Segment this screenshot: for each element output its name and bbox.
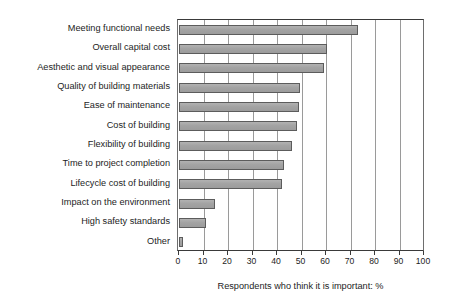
category-label: Flexibility of building	[88, 135, 170, 154]
category-label: Lifecycle cost of building	[70, 174, 170, 193]
x-tick	[423, 251, 424, 255]
bar	[179, 160, 284, 170]
bar	[179, 218, 206, 228]
x-axis: 0102030405060708090100	[177, 251, 424, 273]
bar	[179, 102, 299, 112]
x-tick	[399, 251, 400, 255]
x-tick-label: 10	[198, 256, 208, 266]
gridline	[400, 20, 401, 250]
x-tick	[301, 251, 302, 255]
x-tick	[178, 251, 179, 255]
bar	[179, 199, 215, 209]
gridline	[253, 20, 254, 250]
category-label: High safety standards	[81, 212, 170, 231]
category-label: Meeting functional needs	[68, 19, 170, 38]
bar	[179, 83, 300, 93]
x-tick-label: 90	[394, 256, 404, 266]
category-label: Ease of maintenance	[84, 96, 170, 115]
plot-area	[177, 19, 424, 251]
x-tick-label: 20	[222, 256, 232, 266]
x-tick-label: 30	[247, 256, 257, 266]
x-tick	[350, 251, 351, 255]
category-label: Other	[147, 232, 170, 251]
bar	[179, 63, 324, 73]
category-label: Impact on the environment	[61, 193, 170, 212]
x-tick	[374, 251, 375, 255]
x-tick-label: 40	[271, 256, 281, 266]
x-tick-label: 50	[296, 256, 306, 266]
gridline	[277, 20, 278, 250]
bar	[179, 44, 327, 54]
category-label: Time to project completion	[63, 154, 170, 173]
category-label: Overall capital cost	[92, 38, 170, 57]
gridline	[375, 20, 376, 250]
x-axis-title: Respondents who think it is important: %	[177, 281, 424, 291]
gridline	[228, 20, 229, 250]
gridline	[204, 20, 205, 250]
bar	[179, 25, 358, 35]
bar-chart-figure: Meeting functional needsOverall capital …	[0, 0, 459, 305]
bar	[179, 141, 292, 151]
x-tick	[276, 251, 277, 255]
category-label: Quality of building materials	[57, 77, 170, 96]
gridline	[351, 20, 352, 250]
category-label: Cost of building	[107, 116, 170, 135]
category-label: Aesthetic and visual appearance	[37, 58, 170, 77]
gridline	[302, 20, 303, 250]
x-tick	[325, 251, 326, 255]
bar	[179, 237, 183, 247]
gridline	[326, 20, 327, 250]
x-tick	[227, 251, 228, 255]
bar	[179, 179, 282, 189]
x-tick-label: 60	[320, 256, 330, 266]
bar	[179, 121, 297, 131]
x-tick	[252, 251, 253, 255]
x-tick-label: 80	[369, 256, 379, 266]
x-tick-label: 70	[345, 256, 355, 266]
x-tick	[203, 251, 204, 255]
category-axis-labels: Meeting functional needsOverall capital …	[0, 19, 174, 251]
x-tick-label: 0	[176, 256, 181, 266]
x-tick-label: 100	[416, 256, 430, 266]
